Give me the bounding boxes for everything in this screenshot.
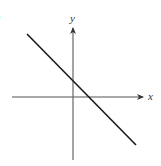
data-line [27, 34, 136, 145]
x-axis-label: x [147, 90, 153, 102]
y-axis-label: y [69, 12, 75, 24]
chart-plot: y x [0, 0, 161, 166]
